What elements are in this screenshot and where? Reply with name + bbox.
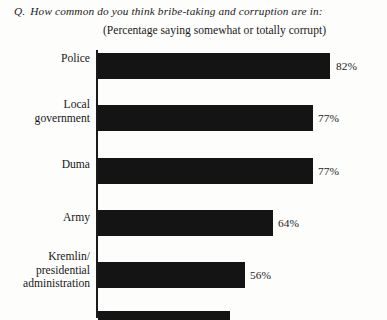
bar-category-label-line: government <box>0 112 90 126</box>
bar-category-label-line: Army <box>0 211 90 225</box>
bar <box>98 105 313 131</box>
bar-category-label: Kremlin/ presidential administration <box>0 250 90 291</box>
bar-value-label: 64% <box>278 210 299 236</box>
bar-value-label: 77% <box>318 158 339 184</box>
bar-category-label-line: presidential <box>0 264 90 278</box>
bar-category-label-line: Duma <box>0 158 90 172</box>
bar <box>98 262 245 288</box>
bar-category-label: Local government <box>0 98 90 125</box>
question-marker: Q. <box>14 4 25 18</box>
question-text: How common do you think bribe-taking and… <box>30 5 322 17</box>
bar-category-label-line: Police <box>0 52 90 66</box>
bar-category-label: Duma <box>0 158 90 172</box>
bar-category-label: Army <box>0 211 90 225</box>
bar-category-label-line: Local <box>0 98 90 112</box>
bar-row: Local government 77% <box>0 97 387 150</box>
bar-row: Duma 77% <box>0 150 387 203</box>
bar-value-label: 82% <box>336 53 357 79</box>
bar-cropped-bottom <box>98 311 230 320</box>
bar-category-label-line: Kremlin/ <box>0 250 90 264</box>
bar-value-label: 77% <box>318 105 339 131</box>
bar <box>98 210 273 236</box>
bar-value-label: 56% <box>250 262 271 288</box>
chart-question: Q.How common do you think bribe-taking a… <box>14 4 374 18</box>
bar-row: Kremlin/ presidential administration 56% <box>0 256 387 309</box>
bar <box>98 53 330 79</box>
chart-subtitle: (Percentage saying somewhat or totally c… <box>0 23 387 38</box>
bar-category-label-line: administration <box>0 277 90 291</box>
chart-figure: Q.How common do you think bribe-taking a… <box>0 0 387 320</box>
bar <box>98 158 313 184</box>
bar-category-label: Police <box>0 52 90 66</box>
bar-row: Police 82% <box>0 44 387 97</box>
bar-row: Army 64% <box>0 203 387 256</box>
plot-area: Police 82% Local government 77% Duma 77% <box>0 44 387 320</box>
